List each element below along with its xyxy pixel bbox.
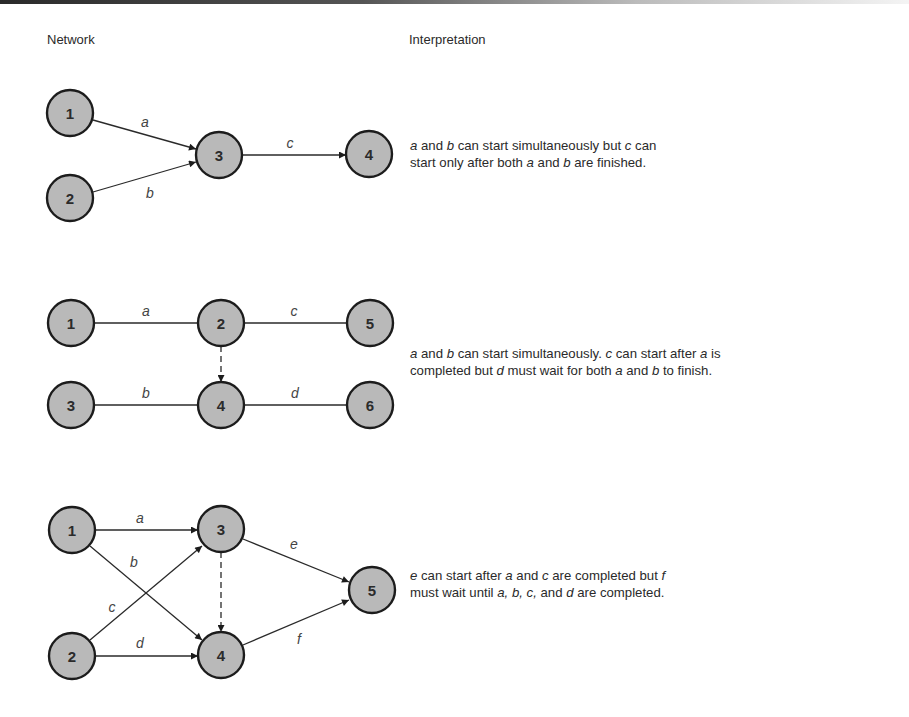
interpretation-line: must wait until a, b, c, and d are compl… (410, 584, 665, 601)
edge-label-e: e (290, 536, 298, 552)
node-1: 1 (48, 300, 94, 346)
svg-text:1: 1 (68, 522, 76, 539)
node-4: 4 (198, 632, 244, 678)
edge-label-c: c (291, 303, 298, 319)
svg-text:2: 2 (68, 648, 76, 665)
interpretation-3: e can start after a and c are completed … (410, 567, 665, 601)
diagram-1: a b c 1 2 3 4 (47, 90, 392, 221)
svg-text:3: 3 (67, 397, 75, 414)
interpretation-line: a and b can start simultaneously but c c… (410, 137, 656, 154)
svg-text:6: 6 (366, 397, 374, 414)
node-5: 5 (349, 567, 395, 613)
node-3: 3 (48, 382, 94, 428)
svg-text:4: 4 (217, 397, 226, 414)
svg-text:2: 2 (217, 315, 225, 332)
interpretation-line: a and b can start simultaneously. c can … (410, 345, 721, 362)
node-1: 1 (49, 507, 95, 553)
edge-label-b: b (146, 185, 154, 201)
diagram-3: a b c d e f 1 2 3 4 5 (49, 506, 395, 679)
node-6: 6 (347, 382, 393, 428)
svg-text:1: 1 (67, 315, 75, 332)
svg-text:1: 1 (66, 105, 74, 122)
edge-label-a: a (141, 114, 149, 130)
node-4: 4 (198, 382, 244, 428)
node-3: 3 (198, 506, 244, 552)
interpretation-line: completed but d must wait for both a and… (410, 362, 721, 379)
node-2: 2 (47, 175, 93, 221)
edge-label-f: f (297, 631, 303, 647)
svg-text:5: 5 (368, 582, 376, 599)
diagram-2: a c b d 1 2 5 3 4 6 (48, 300, 393, 428)
node-1: 1 (47, 90, 93, 136)
node-2: 2 (198, 300, 244, 346)
edge-label-b: b (130, 554, 138, 570)
edge-label-a: a (142, 303, 150, 319)
node-2: 2 (49, 633, 95, 679)
node-5: 5 (347, 300, 393, 346)
svg-text:3: 3 (215, 147, 223, 164)
interpretation-2: a and b can start simultaneously. c can … (410, 345, 721, 379)
svg-text:4: 4 (365, 146, 374, 163)
node-3: 3 (196, 132, 242, 178)
edge-label-a: a (136, 510, 144, 526)
node-4: 4 (346, 131, 392, 177)
svg-text:3: 3 (217, 521, 225, 538)
edge-f (243, 600, 349, 645)
edge-label-c: c (109, 599, 116, 615)
edge-b (93, 162, 196, 192)
interpretation-line: e can start after a and c are completed … (410, 567, 665, 584)
edge-label-b: b (142, 385, 150, 401)
svg-text:4: 4 (217, 647, 226, 664)
svg-text:2: 2 (66, 190, 74, 207)
svg-text:5: 5 (366, 315, 374, 332)
edge-label-d: d (291, 385, 300, 401)
edge-label-d: d (136, 635, 145, 651)
edge-label-c: c (287, 135, 294, 151)
interpretation-1: a and b can start simultaneously but c c… (410, 137, 656, 171)
interpretation-line: start only after both a and b are finish… (410, 154, 656, 171)
